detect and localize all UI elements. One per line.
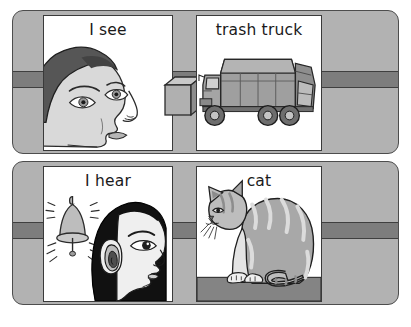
- panel-i-hear[interactable]: I hear: [43, 166, 173, 302]
- cat-illustration: [197, 167, 321, 301]
- illustration-canvas: I see: [0, 0, 411, 327]
- panel-i-see[interactable]: I see: [43, 15, 173, 151]
- trash-truck-illustration: [197, 16, 321, 150]
- man-face-illustration: [44, 16, 172, 150]
- woman-bell-illustration: [44, 167, 172, 301]
- panel-trash-truck[interactable]: trash truck: [196, 15, 322, 151]
- see-row-container: I see: [12, 10, 399, 154]
- hear-row-container: I hear: [12, 161, 399, 305]
- panel-cat[interactable]: cat: [196, 166, 322, 302]
